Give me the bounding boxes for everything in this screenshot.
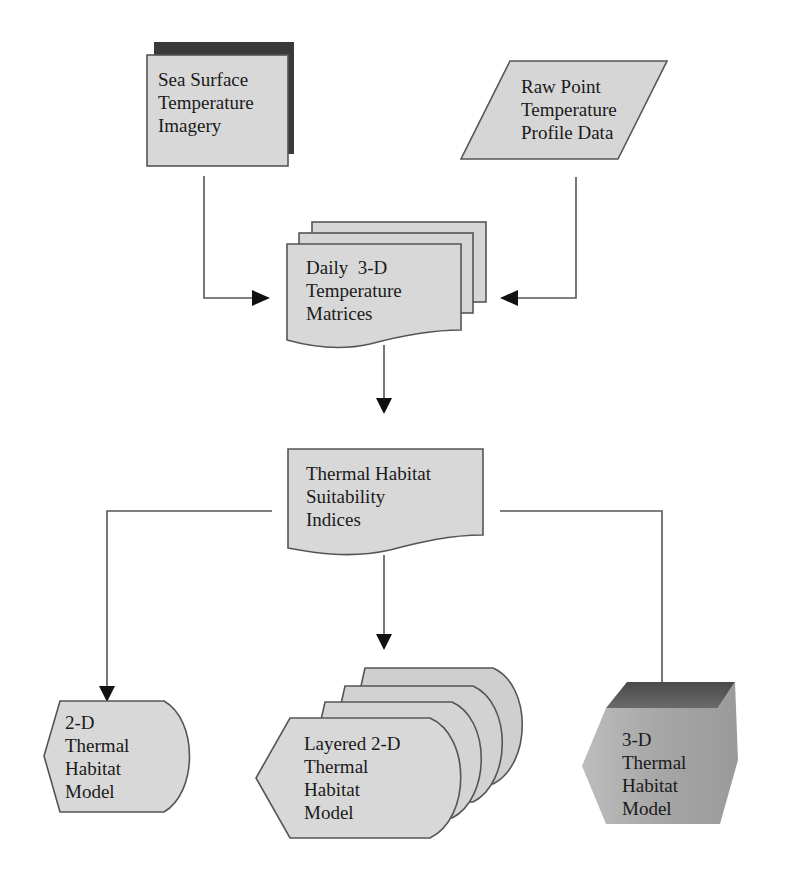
edge-thsi-to-layered [376, 555, 392, 650]
arrowhead-icon [376, 398, 392, 414]
node-daily-3d-temperature-matrices: Daily 3-D Temperature Matrices [287, 222, 486, 348]
arrowhead-icon [252, 290, 270, 306]
node-layered-2d-thermal-habitat-model: Layered 2-D Thermal Habitat Model [256, 668, 522, 838]
node-sea-surface-temperature-imagery: Sea Surface Temperature Imagery [147, 42, 294, 166]
arrowhead-icon [376, 634, 392, 650]
node-thermal-habitat-suitability-indices: Thermal Habitat Suitability Indices [288, 449, 483, 555]
edge-thsi-to-2d [99, 511, 272, 702]
flowchart-diagram: Sea Surface Temperature Imagery Raw Poin… [0, 0, 804, 875]
node-raw-point-temperature-profile-data: Raw Point Temperature Profile Data [461, 61, 667, 159]
edge-raw-to-daily [500, 177, 576, 306]
edge-sst-to-daily [204, 176, 270, 306]
3d-top-face [606, 682, 735, 708]
arrowhead-icon [500, 290, 518, 306]
node-2d-thermal-habitat-model: 2-D Thermal Habitat Model [44, 701, 190, 812]
node-3d-thermal-habitat-model: 3-D Thermal Habitat Model [582, 682, 738, 824]
edge-daily-to-thsi [376, 345, 392, 414]
arrowhead-icon [99, 686, 115, 702]
edge-thsi-to-3d [500, 511, 670, 702]
